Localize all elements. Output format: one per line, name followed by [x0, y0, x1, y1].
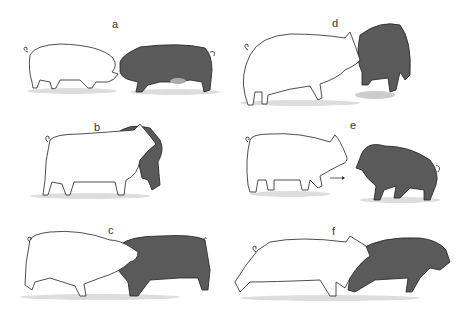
- panel-a-label: a: [112, 18, 119, 30]
- pig-interaction-figure: a b c d e: [0, 0, 470, 313]
- panel-f-label: f: [332, 225, 336, 237]
- panel-d-label: d: [332, 17, 338, 29]
- panel-d: [240, 24, 410, 106]
- panel-b: [30, 124, 162, 199]
- panel-a: [24, 44, 220, 95]
- panel-e-label: e: [350, 119, 356, 131]
- panel-f: [235, 236, 450, 301]
- panel-e: [246, 134, 440, 203]
- panel-b-label: b: [94, 121, 100, 133]
- panel-c: [20, 231, 210, 300]
- panel-c-label: c: [108, 224, 114, 236]
